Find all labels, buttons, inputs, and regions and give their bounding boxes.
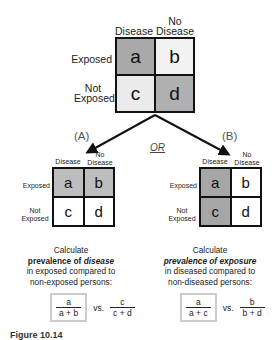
or-label: OR <box>150 142 165 153</box>
panel-a-cell-b: b <box>85 169 114 196</box>
panel-b-label: (B) <box>222 130 237 142</box>
panel-b-cell-a-label: a <box>211 174 219 191</box>
panel-a-col-header-disease-text: Disease <box>55 158 80 165</box>
panel-b-desc-line4: non-diseased persons: <box>145 277 275 288</box>
panel-a-desc-line3: in exposed compared to <box>6 266 136 277</box>
panel-b-col-header-no-line2: Disease <box>231 159 263 167</box>
panel-a-desc-line2: prevalence of disease <box>6 256 136 267</box>
panel-b-col-header-disease: Disease <box>199 158 231 166</box>
panel-b-desc-line3: in diseased compared to <box>145 266 275 277</box>
panel-a-desc-line1: Calculate <box>6 245 136 256</box>
panel-b-col-header-no-disease: No Disease <box>231 151 263 166</box>
panel-a-vs: vs. <box>93 303 104 313</box>
panel-b-cell-d: d <box>232 198 261 225</box>
panel-a-desc-bold-italic: disease <box>84 256 114 266</box>
panel-b-cell-a: a <box>201 169 230 196</box>
panel-a-col-header-no-line2: Disease <box>84 159 116 167</box>
panel-a-right-fraction: c c + d <box>110 297 135 319</box>
panel-b-cell-c: c <box>201 198 230 225</box>
panel-a-label: (A) <box>74 130 89 142</box>
panel-a-cell-d-label: d <box>95 203 103 220</box>
panel-b-right-denominator: b + d <box>240 307 265 319</box>
panel-b-left-fraction: a a + c <box>180 293 217 322</box>
figure-caption: Figure 10.14 <box>10 330 63 340</box>
panel-b-right-fraction: b b + d <box>240 297 265 319</box>
panel-b-left-denominator: a + c <box>186 307 211 319</box>
panel-a-row-header-exposed: Exposed <box>10 182 50 190</box>
panel-a-cell-c-label: c <box>65 203 73 220</box>
panel-a-row-header-exposed-text: Exposed <box>23 182 50 189</box>
panel-b-vs: vs. <box>223 303 234 313</box>
panel-a-cell-c: c <box>54 198 83 225</box>
panel-b-desc-bold-italic2: exposure <box>219 256 256 266</box>
panel-b-col-header-no-line1: No <box>231 151 263 159</box>
panel-b-2x2-grid: a b c d <box>199 167 262 227</box>
panel-b-cell-b: b <box>232 169 261 196</box>
panel-b-description: Calculate prevalence of exposure in dise… <box>145 245 275 287</box>
panel-a-row-header-not-exposed: Not Exposed <box>10 207 50 223</box>
panel-a-right-numerator: c <box>117 297 127 307</box>
panel-a-left-fraction: a a + b <box>50 293 87 322</box>
figure-caption-label: Figure 10.14 <box>10 330 63 340</box>
panel-b-right-numerator: b <box>247 297 258 307</box>
panel-b-row-header-exposed-text: Exposed <box>170 182 197 189</box>
panel-a-description: Calculate prevalence of disease in expos… <box>6 245 136 287</box>
panel-a-cell-b-label: b <box>95 174 103 191</box>
panel-b-desc-line2: prevalence of exposure <box>145 256 275 267</box>
panel-b-left-numerator: a <box>193 297 204 307</box>
panel-a-cell-a-label: a <box>64 174 72 191</box>
panel-a-desc-bold: prevalence of <box>28 256 84 266</box>
panel-b-cell-b-label: b <box>242 174 250 191</box>
panel-b-row-header-not-line1: Not <box>167 207 197 215</box>
panel-a-right-denominator: c + d <box>110 307 135 319</box>
panel-a-left-denominator: a + b <box>56 307 81 319</box>
panel-b-cell-d-label: d <box>242 203 250 220</box>
panel-a-cell-d: d <box>85 198 114 225</box>
panel-b-cell-c-label: c <box>212 203 220 220</box>
arrow-to-panel-a <box>88 115 155 152</box>
panel-b-formula: a a + c vs. b b + d <box>180 293 265 322</box>
panel-a-cell-a: a <box>54 169 83 196</box>
panel-a-desc-line4: non-exposed persons: <box>6 277 136 288</box>
panel-a-row-header-not-line1: Not <box>20 207 50 215</box>
panel-a-col-header-no-line1: No <box>84 151 116 159</box>
panel-a-2x2-grid: a b c d <box>52 167 115 227</box>
panel-a-left-numerator: a <box>63 297 74 307</box>
panel-b-row-header-not-line2: Exposed <box>167 215 197 223</box>
panel-b-row-header-exposed: Exposed <box>157 182 197 190</box>
panel-b-desc-bold-italic1: prevalence of <box>164 256 220 266</box>
panel-b-col-header-disease-text: Disease <box>202 158 227 165</box>
panel-a-formula: a a + b vs. c c + d <box>50 293 135 322</box>
panel-b-desc-line1: Calculate <box>145 245 275 256</box>
panel-b-row-header-not-exposed: Not Exposed <box>157 207 197 223</box>
panel-a-col-header-no-disease: No Disease <box>84 151 116 166</box>
panel-a-col-header-disease: Disease <box>52 158 84 166</box>
panel-a-row-header-not-line2: Exposed <box>20 215 50 223</box>
arrow-to-panel-b <box>155 115 228 154</box>
